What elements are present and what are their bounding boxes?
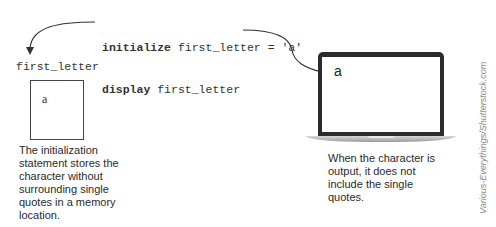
- image-credit: Various-Everythings/Shutterstock.com: [478, 62, 488, 214]
- code-line-display: display first_letter: [102, 83, 302, 97]
- keyword-initialize: initialize: [102, 41, 171, 54]
- memory-location-box: a: [30, 80, 84, 140]
- arrowhead-down-icon: [26, 47, 34, 55]
- caption-line: statement stores the: [19, 157, 119, 170]
- caption-line: output, it does not: [328, 165, 435, 178]
- caption-initialization: The initialization statement stores the …: [19, 144, 119, 222]
- caption-line: character without: [19, 170, 119, 183]
- code-line-initialize-rest: first_letter = 'a': [171, 41, 302, 54]
- stored-value: a: [42, 92, 47, 107]
- variable-name-label: first_letter: [16, 60, 99, 73]
- caption-output: When the character is output, it does no…: [328, 152, 435, 204]
- code-line-display-rest: first_letter: [150, 83, 240, 96]
- caption-line: When the character is: [328, 152, 435, 165]
- laptop-screen: a: [322, 57, 440, 132]
- laptop-icon: a: [306, 52, 456, 152]
- caption-line: include the single: [328, 178, 435, 191]
- keyword-display: display: [102, 83, 150, 96]
- laptop-bezel: a: [318, 52, 444, 136]
- caption-line: The initialization: [19, 144, 119, 157]
- laptop-notch: [368, 136, 394, 138]
- pseudocode-block: initialize first_letter = 'a' display fi…: [102, 13, 302, 111]
- screen-output-char: a: [334, 63, 342, 79]
- caption-line: quotes in a memory: [19, 196, 119, 209]
- caption-line: location.: [19, 209, 119, 222]
- caption-line: quotes.: [328, 191, 435, 204]
- code-line-initialize: initialize first_letter = 'a': [102, 41, 302, 55]
- caption-line: surrounding single: [19, 183, 119, 196]
- arrow-initialize-to-memory: [30, 22, 95, 48]
